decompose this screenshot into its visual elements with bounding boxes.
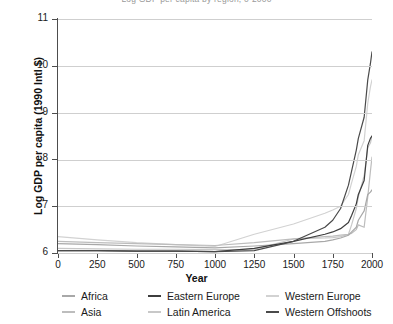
y-tick-label: 11 (0, 12, 48, 23)
chart-legend: Africa Eastern Europe Western Europe Asi… (0, 288, 393, 320)
series-line-western-offshoots (58, 52, 372, 252)
series-line-asia (58, 157, 372, 245)
legend-swatch-icon (266, 295, 279, 297)
series-line-western-europe (58, 80, 372, 247)
y-tick-label: 6 (0, 246, 48, 257)
y-tick-mark (52, 253, 57, 254)
legend-row-2: Asia Latin America Western Offshoots (0, 304, 393, 320)
gridline-8 (58, 160, 372, 161)
y-tick-mark (52, 19, 57, 20)
chart-title-cropped: Log GDP per capita by region, 0-2000 (0, 0, 393, 9)
series-line-eastern-europe (58, 136, 372, 252)
y-tick-mark (52, 206, 57, 207)
legend-swatch-icon (266, 311, 279, 313)
legend-label: Eastern Europe (167, 290, 240, 302)
legend-label: Western Offshoots (285, 306, 372, 318)
gridline-7 (58, 206, 372, 207)
legend-label: Asia (81, 306, 101, 318)
x-tick-mark (294, 254, 295, 258)
legend-item-africa[interactable]: Africa (62, 290, 148, 302)
legend-item-western-europe[interactable]: Western Europe (266, 290, 361, 302)
legend-item-western-offshoots[interactable]: Western Offshoots (266, 306, 372, 318)
x-tick-mark (176, 254, 177, 258)
y-tick-label: 8 (0, 152, 48, 163)
gridline-11 (58, 19, 372, 20)
legend-swatch-icon (62, 311, 75, 313)
chart-container: Log GDP per capita by region, 0-2000 Log… (0, 0, 393, 324)
legend-label: Africa (81, 290, 108, 302)
x-tick-mark (333, 254, 334, 258)
x-tick-mark (137, 254, 138, 258)
series-lines (58, 19, 372, 253)
gridline-10 (58, 66, 372, 67)
legend-item-latin-america[interactable]: Latin America (148, 306, 266, 318)
legend-label: Latin America (167, 306, 231, 318)
gridline-9 (58, 113, 372, 114)
x-tick-label: 2000 (342, 259, 393, 270)
y-tick-mark (52, 113, 57, 114)
chart-title-text: Log GDP per capita by region, 0-2000 (121, 0, 271, 4)
series-line-africa (58, 190, 372, 248)
legend-swatch-icon (62, 295, 75, 297)
legend-label: Western Europe (285, 290, 361, 302)
x-tick-mark (372, 254, 373, 258)
y-tick-mark (52, 159, 57, 160)
x-tick-mark (97, 254, 98, 258)
x-tick-mark (58, 254, 59, 258)
series-line-latin-america (58, 136, 372, 250)
x-tick-mark (215, 254, 216, 258)
x-axis-label: Year (0, 272, 393, 284)
legend-swatch-icon (148, 295, 161, 297)
y-tick-label: 9 (0, 106, 48, 117)
plot-area (58, 19, 372, 253)
legend-row-1: Africa Eastern Europe Western Europe (0, 288, 393, 304)
legend-item-eastern-europe[interactable]: Eastern Europe (148, 290, 266, 302)
legend-swatch-icon (148, 311, 161, 313)
y-tick-label: 7 (0, 199, 48, 210)
x-tick-mark (254, 254, 255, 258)
legend-item-asia[interactable]: Asia (62, 306, 148, 318)
y-tick-mark (52, 66, 57, 67)
y-tick-label: 10 (0, 59, 48, 70)
